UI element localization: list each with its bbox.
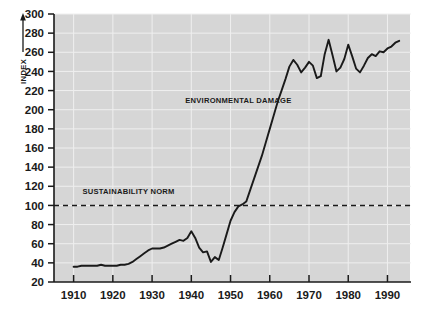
x-axis-tick-labels: 191019201930194019501960197019801990 [61,289,400,301]
y-axis-tick-label: 180 [25,123,44,135]
y-axis-tick-labels: 2040608010012014016018020022024026028030… [25,8,44,288]
x-axis-tick-label: 1970 [296,289,322,301]
y-axis-tick-label: 100 [25,200,44,212]
x-axis-tick-label: 1940 [179,289,205,301]
series-annotation-label: ENVIRONMENTAL DAMAGE [185,96,291,105]
chart-canvas: 2040608010012014016018020022024026028030… [0,0,432,314]
x-axis-tick-label: 1950 [218,289,244,301]
y-axis-ticks [48,14,54,282]
y-axis-tick-label: 160 [25,142,44,154]
y-axis-tick-label: 200 [25,104,44,116]
x-axis-tick-label: 1990 [375,289,401,301]
x-axis-tick-label: 1920 [100,289,126,301]
x-axis-tick-label: 1930 [139,289,165,301]
y-axis-tick-label: 140 [25,161,44,173]
sustainability-norm-annotation-label: SUSTAINABILITY NORM [82,187,174,196]
y-axis-tick-label: 120 [25,180,44,192]
y-axis-title: INDEX [19,59,28,84]
x-axis-tick-label: 1960 [257,289,283,301]
x-axis-tick-label: 1980 [335,289,361,301]
x-axis-tick-label: 1910 [61,289,87,301]
environmental-damage-chart: 2040608010012014016018020022024026028030… [0,0,432,314]
y-axis-tick-label: 260 [25,46,44,58]
y-axis-tick-label: 80 [31,219,44,231]
y-axis-tick-label: 20 [31,276,44,288]
y-axis-tick-label: 220 [25,85,44,97]
y-axis-tick-label: 300 [25,8,44,20]
y-axis-tick-label: 280 [25,27,44,39]
y-axis-tick-label: 40 [31,257,44,269]
y-axis-tick-label: 60 [31,238,44,250]
